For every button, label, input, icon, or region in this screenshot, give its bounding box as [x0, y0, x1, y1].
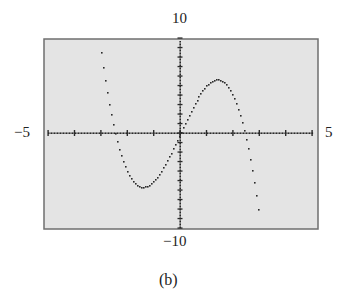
xmin-label: −5 — [14, 125, 30, 140]
ymin-label: −10 — [163, 234, 186, 249]
figure-caption: (b) — [159, 272, 178, 288]
xmax-label: 5 — [325, 125, 333, 140]
graph-window — [0, 0, 346, 294]
ymax-label: 10 — [172, 11, 187, 26]
